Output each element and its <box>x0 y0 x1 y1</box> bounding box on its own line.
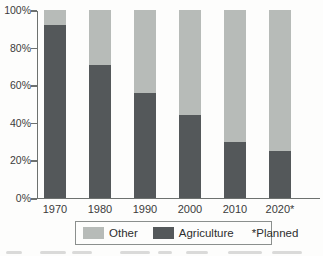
bar-segment-other <box>224 10 246 142</box>
bar-segment-agriculture <box>269 151 291 198</box>
legend-label-other: Other <box>109 227 138 239</box>
y-tick-label: 20% <box>0 155 31 166</box>
plot-area: 0%20%40%60%80%100% 197019801990200020102… <box>37 11 320 199</box>
bar-segment-other <box>44 10 66 25</box>
y-tick-mark <box>31 10 37 12</box>
x-tick-label: 2000 <box>168 203 212 215</box>
x-tick-label: 1970 <box>33 203 77 215</box>
legend-label-agriculture: Agriculture <box>179 227 234 239</box>
x-tick-label: 2020* <box>258 203 302 215</box>
x-tick-label: 1990 <box>123 203 167 215</box>
figure: 0%20%40%60%80%100% 197019801990200020102… <box>0 0 323 256</box>
stacked-bar-2000 <box>179 10 201 198</box>
bar-segment-agriculture <box>179 115 201 198</box>
y-tick-mark <box>31 160 37 162</box>
stacked-bar-1970 <box>44 10 66 198</box>
bar-segment-other <box>269 10 291 151</box>
legend-note-planned: *Planned <box>252 227 299 239</box>
bar-segment-agriculture <box>44 25 66 198</box>
legend-swatch-other <box>83 227 104 239</box>
bar-segment-other <box>179 10 201 115</box>
y-tick-mark <box>31 123 37 125</box>
y-tick-mark <box>31 85 37 87</box>
legend-swatch-agriculture <box>153 227 174 239</box>
stacked-bar-2010 <box>224 10 246 198</box>
bar-segment-agriculture <box>224 142 246 198</box>
bar-segment-other <box>134 10 156 93</box>
legend: Other Agriculture *Planned <box>75 221 272 245</box>
stacked-bar-1990 <box>134 10 156 198</box>
bar-segment-agriculture <box>134 93 156 198</box>
y-tick-mark <box>31 198 37 200</box>
x-tick-label: 2010 <box>213 203 257 215</box>
stacked-bar-1980 <box>89 10 111 198</box>
bar-segment-agriculture <box>89 65 111 198</box>
y-tick-label: 80% <box>0 43 31 54</box>
stacked-bar-2020 <box>269 10 291 198</box>
y-tick-label: 60% <box>0 80 31 91</box>
x-tick-label: 1980 <box>78 203 122 215</box>
y-tick-mark <box>31 48 37 50</box>
y-tick-label: 40% <box>0 118 31 129</box>
y-tick-label: 100% <box>0 5 31 16</box>
bar-segment-other <box>89 10 111 65</box>
y-tick-label: 0% <box>0 193 31 204</box>
cutoff-caption-smudge <box>0 249 323 256</box>
